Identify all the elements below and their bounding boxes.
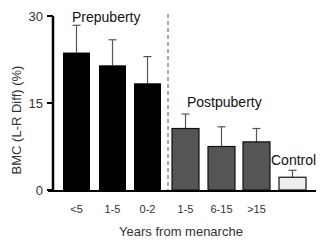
x-tick-label: <5 <box>70 203 83 215</box>
bar <box>134 83 161 190</box>
x-tick-label: 0-2 <box>140 203 156 215</box>
x-axis-title: Years from menarche <box>119 224 243 239</box>
x-tick-label: 1-5 <box>178 203 194 215</box>
bar <box>63 53 90 190</box>
bar-chart: 01530<51-50-21-56-15>15PrepubertyPostpub… <box>0 0 328 243</box>
labels: 01530<51-50-21-56-15>15PrepubertyPostpub… <box>9 9 316 239</box>
bar <box>279 177 306 190</box>
bar <box>243 142 270 190</box>
bar <box>172 129 199 190</box>
bar <box>99 65 126 190</box>
y-tick-label: 0 <box>36 183 43 198</box>
bar <box>208 147 235 191</box>
x-tick-label: >15 <box>247 203 266 215</box>
y-axis-title: BMC (L-R Diff) (%) <box>9 66 24 175</box>
x-tick-label: 1-5 <box>105 203 121 215</box>
y-tick-label: 30 <box>29 9 43 24</box>
postpuberty-label: Postpuberty <box>187 94 262 110</box>
control-label: Control <box>271 152 316 168</box>
x-tick-label: 6-15 <box>210 203 232 215</box>
bars <box>63 25 306 190</box>
prepuberty-label: Prepuberty <box>72 9 140 25</box>
y-tick-label: 15 <box>29 96 43 111</box>
